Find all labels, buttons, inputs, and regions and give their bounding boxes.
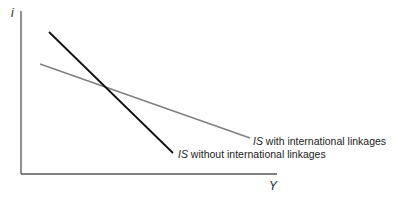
is-without-suffix: without international linkages (188, 148, 326, 160)
is-with-prefix: IS (253, 135, 263, 147)
is-with-linkages-label: IS with international linkages (253, 135, 386, 147)
is-curve-diagram: i Y IS with international linkages IS wi… (0, 0, 398, 200)
is-without-linkages-label: IS without international linkages (178, 148, 326, 160)
is-with-suffix: with international linkages (263, 135, 386, 147)
is-without-prefix: IS (178, 148, 188, 160)
y-axis-label: i (11, 6, 14, 20)
x-axis-label: Y (269, 179, 278, 193)
is-curve-without-linkages (49, 32, 173, 153)
